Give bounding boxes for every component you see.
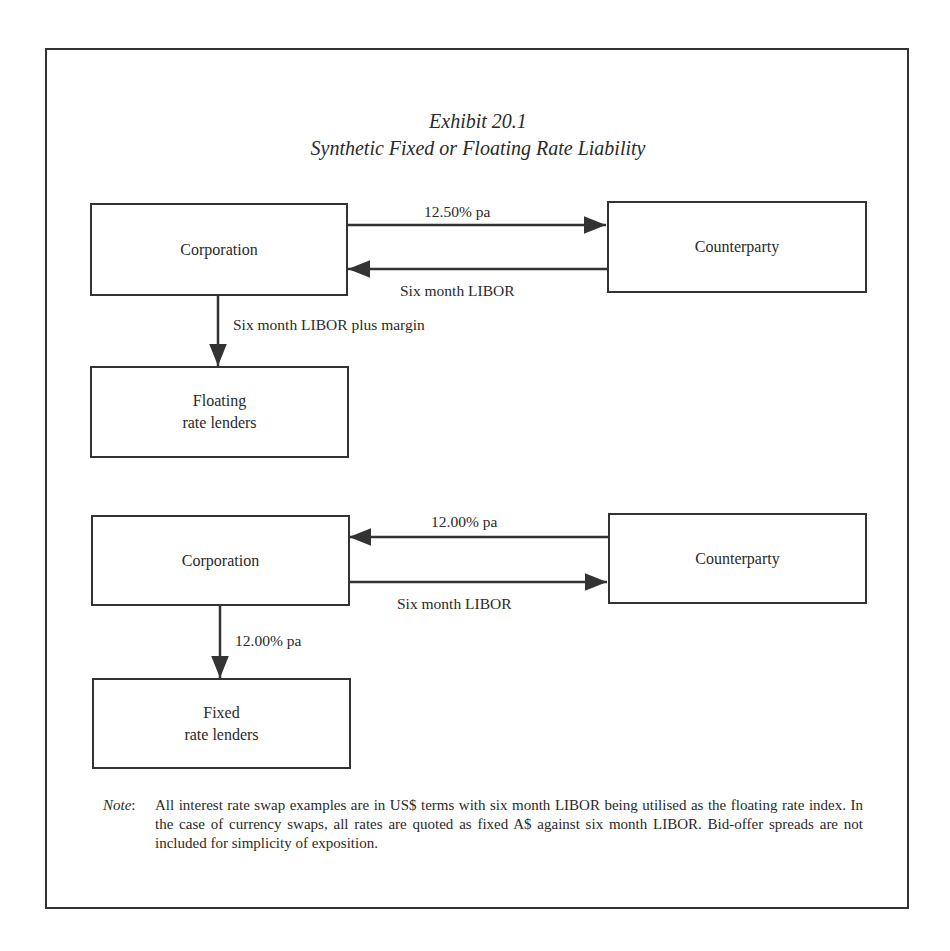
bottom-libor-label: Six month LIBOR: [397, 595, 512, 613]
bottom-counterparty-box: Counterparty: [608, 513, 867, 604]
fixed-rate-lenders-box: Fixed rate lenders: [92, 678, 351, 769]
fixed-lenders-line2: rate lenders: [184, 724, 258, 746]
floating-lenders-line1: Floating: [193, 390, 246, 412]
top-counterparty-label: Counterparty: [695, 236, 779, 258]
exhibit-frame: [45, 48, 909, 909]
top-libor-label: Six month LIBOR: [400, 282, 515, 300]
exhibit-title: Synthetic Fixed or Floating Rate Liabili…: [45, 137, 911, 160]
bottom-corporation-box: Corporation: [91, 515, 350, 606]
fixed-lenders-line1: Fixed: [203, 702, 239, 724]
bottom-fixed-rate-label: 12.00% pa: [431, 513, 497, 531]
top-counterparty-box: Counterparty: [607, 201, 867, 293]
top-corporation-label: Corporation: [180, 239, 257, 261]
bottom-lenders-rate-label: 12.00% pa: [235, 632, 301, 650]
top-libor-plus-margin-label: Six month LIBOR plus margin: [233, 316, 425, 334]
top-corporation-box: Corporation: [90, 203, 348, 296]
exhibit-number: Exhibit 20.1: [45, 110, 911, 133]
top-fixed-rate-label: 12.50% pa: [424, 203, 490, 221]
note-colon: :: [131, 797, 135, 813]
floating-lenders-line2: rate lenders: [182, 412, 256, 434]
floating-rate-lenders-box: Floating rate lenders: [90, 366, 349, 458]
bottom-corporation-label: Corporation: [182, 550, 259, 572]
note-text: All interest rate swap examples are in U…: [155, 796, 863, 853]
bottom-counterparty-label: Counterparty: [695, 548, 779, 570]
note-label: Note: [103, 797, 131, 813]
exhibit-note: Note: All interest rate swap examples ar…: [103, 796, 863, 853]
